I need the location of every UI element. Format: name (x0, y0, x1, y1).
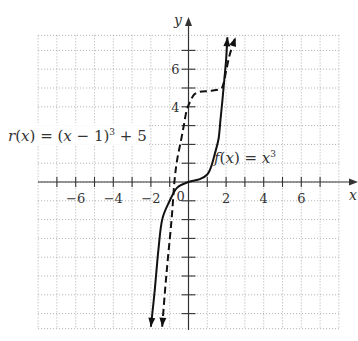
x-tick-label: 4 (260, 191, 268, 206)
r-equals: = ( (35, 127, 63, 145)
f-equals: = (240, 149, 262, 167)
x-tick-label: −2 (141, 191, 160, 206)
x-axis-label: x (349, 187, 357, 203)
x-tick-label: −6 (66, 191, 85, 206)
f-function-label: f(x) = x3 (214, 145, 276, 167)
r-arg: x (21, 127, 29, 145)
x-axis-arrow-icon (349, 179, 358, 186)
r-function-label: r(x) = (x − 1)3 + 5 (8, 123, 147, 145)
y-tick-label: 6 (171, 62, 179, 77)
function-graph: x y −6−4−2246460 (0, 0, 358, 341)
y-tick-label: 4 (171, 100, 179, 115)
y-axis-arrow-icon (185, 17, 192, 26)
f-exponent: 3 (270, 149, 276, 159)
origin-label: 0 (177, 189, 185, 204)
f-curve-end-arrow-icon (223, 37, 230, 46)
r-curve-end-arrow-icon (229, 37, 236, 47)
f-arg: x (225, 149, 233, 167)
x-tick-label: 2 (222, 191, 230, 206)
x-tick-label: 6 (297, 191, 305, 206)
x-tick-label: −4 (104, 191, 123, 206)
r-inner-var: x (63, 127, 71, 145)
r-inner-rest: − 1) (72, 127, 110, 145)
axes: x y (38, 12, 358, 330)
y-axis-label: y (173, 12, 183, 28)
r-tail: + 5 (115, 127, 147, 145)
